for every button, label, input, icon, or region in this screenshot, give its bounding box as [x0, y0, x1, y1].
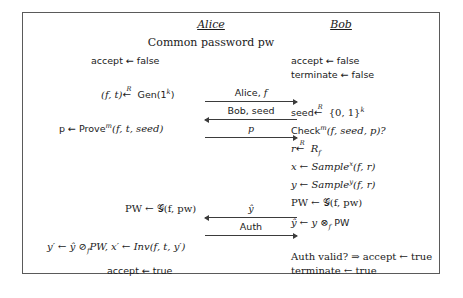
bob-seed-assign: seedR←{0, 1}k	[291, 107, 365, 119]
alice-accept-true: accept ← true	[107, 265, 172, 277]
bob-auth-check: Auth valid? ⇒ accept ← true	[291, 251, 432, 263]
bob-check-args: (f, seed, p)?	[327, 125, 386, 136]
message-label-auth: Auth	[240, 221, 262, 232]
bob-yhat-assign: ŷ ← y ⊗f PW	[291, 217, 349, 229]
bob-x-prefix: x ← Sample	[291, 161, 349, 172]
random-assign-arrow-icon: R←	[296, 143, 311, 153]
message-arrow-yhat	[205, 217, 297, 218]
message-arrow-alice-f	[205, 101, 297, 102]
alice-final-compute: y′ ← ŷ ⊘fPW, x′ ← Inv(f, t, y′)	[47, 241, 186, 253]
alice-keygen-prefix: (f, t)	[101, 89, 123, 100]
alice-prove-label: p ← Prove	[59, 123, 106, 134]
alice-prove-line: p ← Provem(f, t, seed)	[59, 123, 163, 135]
message-label-alice-f: Alice, f	[235, 87, 267, 98]
message-arrow-auth	[205, 235, 297, 236]
message-label-yhat: ŷ	[248, 203, 253, 214]
party-heading-bob: Bob	[330, 19, 352, 31]
protocol-figure: Alice Bob Common password pw accept ← fa…	[22, 12, 440, 274]
bob-terminate-true: terminate ← true	[291, 265, 377, 277]
bob-yhat-rest: PW	[334, 217, 349, 228]
alice-pw-assign: PW ← 𝒢(f, pw)	[125, 203, 196, 215]
alice-keygen-call: Gen(1	[138, 89, 167, 100]
bob-init-terminate: terminate ← false	[291, 69, 374, 81]
bob-yhat-subscript: f	[329, 223, 332, 231]
alice-prove-args: (f, t, seed)	[112, 123, 163, 134]
alice-init-accept: accept ← false	[91, 55, 159, 67]
bob-init-accept: accept ← false	[291, 55, 359, 67]
message-arrow-p	[205, 137, 297, 138]
bob-y-assign: y ← Sampley(f, r)	[291, 179, 375, 191]
common-password-text: Common password pw	[148, 36, 274, 49]
random-assign-arrow-icon: R←	[123, 89, 138, 99]
party-heading-alice: Alice	[197, 19, 225, 31]
bob-y-args: (f, r)	[353, 179, 375, 190]
bob-pw-assign: PW ← 𝒢(f, pw)	[291, 197, 362, 209]
bob-seed-exponent: k	[360, 106, 364, 114]
alice-final-compute-prefix: y′ ← ŷ ⊘	[47, 241, 87, 252]
message-label-p: p	[248, 123, 254, 134]
bob-y-prefix: y ← Sample	[291, 179, 349, 190]
message-label-bob-seed: Bob, seed	[227, 105, 274, 116]
alice-keygen-close: )	[171, 89, 175, 100]
message-arrow-bob-seed	[205, 119, 297, 120]
alice-final-compute-rest: PW, x′ ← Inv(f, t, y′)	[89, 241, 185, 252]
bob-check-line: Checkm(f, seed, p)?	[291, 125, 386, 137]
bob-x-assign: x ← Samplex(f, r)	[291, 161, 375, 173]
bob-seed-label: seed	[291, 107, 314, 118]
random-assign-arrow-icon: R←	[314, 107, 329, 117]
alice-keygen-line: (f, t)R←Gen(1k)	[101, 89, 174, 101]
bob-r-assign: rR←Rf	[291, 143, 321, 155]
bob-seed-domain: {0, 1}	[329, 107, 361, 118]
bob-yhat-prefix: ŷ ← y ⊗	[291, 217, 329, 228]
common-password-line: Common password pw	[148, 37, 274, 49]
bob-x-args: (f, r)	[353, 161, 375, 172]
bob-r-subscript: f	[318, 149, 321, 157]
